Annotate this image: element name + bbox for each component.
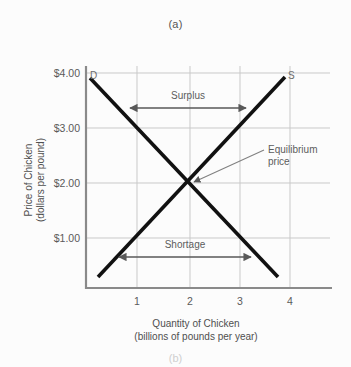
y-tick-label: $3.00 [54, 122, 80, 134]
x-axis-title-main: Quantity of Chicken [152, 318, 239, 329]
x-tick-label: 3 [237, 295, 243, 307]
next-panel-label: (b) [0, 352, 351, 364]
equilibrium-label: Equilibrium [268, 144, 317, 155]
supply-curve-label: S [288, 70, 295, 81]
y-axis-title-sub: (dollars per pound) [35, 138, 46, 222]
x-tick-label: 1 [134, 295, 140, 307]
shortage-annotation: Shortage [119, 239, 251, 257]
vertical-gridlines [137, 66, 290, 288]
x-tick-label: 2 [187, 295, 193, 307]
y-tick-label: $1.00 [54, 232, 80, 244]
equilibrium-leader-line [194, 150, 264, 182]
x-axis-tick-labels: 1 2 3 4 [134, 295, 293, 307]
x-axis-title-sub: (billions of pounds per year) [134, 331, 257, 342]
y-tick-label: $2.00 [54, 177, 80, 189]
x-axis-title: Quantity of Chicken (billions of pounds … [134, 318, 257, 342]
equilibrium-label-line2: price [268, 156, 290, 167]
surplus-annotation: Surplus [130, 90, 246, 108]
surplus-label: Surplus [171, 90, 205, 101]
horizontal-gridlines [86, 73, 330, 238]
shortage-label: Shortage [165, 239, 206, 250]
x-tick-label: 4 [287, 295, 293, 307]
supply-demand-chart: $4.00 $3.00 $2.00 $1.00 1 2 3 4 D S [0, 0, 351, 367]
y-tick-label: $4.00 [54, 67, 80, 79]
supply-demand-figure: (a) $4.00 $3.00 $2.00 $1.00 [0, 0, 351, 367]
y-axis-title: Price of Chicken (dollars per pound) [23, 138, 46, 222]
chart-axes [85, 66, 332, 289]
equilibrium-annotation: Equilibrium price [194, 144, 317, 182]
y-axis-title-main: Price of Chicken [23, 144, 34, 217]
y-axis-tick-labels: $4.00 $3.00 $2.00 $1.00 [54, 67, 80, 244]
demand-curve-label: D [90, 70, 97, 81]
